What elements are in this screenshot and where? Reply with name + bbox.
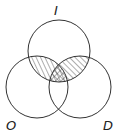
venn-diagram: I O D [0, 0, 119, 137]
label-o: O [6, 118, 16, 133]
label-i: I [54, 3, 58, 18]
label-d: D [103, 118, 113, 133]
region-i-and-o-and-d [0, 0, 119, 137]
